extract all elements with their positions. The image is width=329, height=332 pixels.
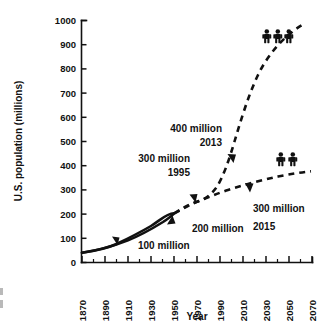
low-projection-figures (276, 152, 297, 166)
annotation-line: 300 million (253, 203, 305, 214)
y-tick-label: 200 (60, 209, 76, 220)
y-tick-label: 400 (60, 160, 76, 171)
high-projection-figures (262, 29, 293, 43)
annotation-100-million: 100 million (138, 240, 190, 251)
population-projection-figure: 1000 900 800 700 600 500 400 300 200 100… (0, 0, 329, 332)
y-tick-label: 0 (71, 257, 76, 268)
annotation-pointer-300-million-2015 (245, 183, 254, 193)
y-tick-label: 900 (60, 39, 76, 50)
person-icon (288, 152, 297, 166)
x-axis-ticks (82, 256, 312, 263)
y-tick-label: 1000 (55, 15, 76, 26)
y-tick-label: 500 (60, 136, 76, 147)
y-tick-label: 800 (60, 63, 76, 74)
y-tick-label: 100 (60, 233, 76, 244)
annotation-line: 1995 (168, 167, 191, 178)
annotation-line: 2013 (200, 137, 223, 148)
y-tick-label: 300 (60, 184, 76, 195)
annotation-line: 400 million (170, 123, 222, 134)
x-tick-label: 2030 (261, 300, 272, 321)
person-icon (276, 152, 285, 166)
annotation-line: 300 million (138, 153, 190, 164)
x-tick-label: 1930 (146, 300, 157, 321)
x-axis-title: Year (186, 311, 207, 322)
high-projection-line (174, 25, 303, 214)
x-tick-label: 1890 (100, 300, 111, 321)
annotation-400-million-2013: 400 million 2013 (170, 123, 222, 148)
y-tick-labels: 1000 900 800 700 600 500 400 300 200 100… (55, 15, 76, 268)
x-tick-label: 2070 (307, 300, 318, 321)
population-chart: 1000 900 800 700 600 500 400 300 200 100… (0, 0, 329, 332)
x-tick-label: 2050 (284, 300, 295, 321)
x-tick-label: 1990 (215, 300, 226, 321)
annotation-300-million-1995: 300 million 1995 (138, 153, 190, 178)
person-icon (262, 29, 271, 43)
y-tick-label: 600 (60, 112, 76, 123)
x-tick-label: 2010 (238, 300, 249, 321)
y-axis-title: U.S. population (millions) (13, 81, 24, 202)
x-tick-label: 1870 (77, 300, 88, 321)
annotation-200-million: 200 million (192, 223, 244, 234)
x-tick-label: 1910 (123, 300, 134, 321)
y-tick-label: 700 (60, 88, 76, 99)
annotation-line: 2015 (253, 221, 276, 232)
page-edge-artifact (0, 288, 3, 308)
annotation-300-million-2015: 300 million 2015 (253, 203, 305, 232)
x-tick-label: 1950 (169, 300, 180, 321)
